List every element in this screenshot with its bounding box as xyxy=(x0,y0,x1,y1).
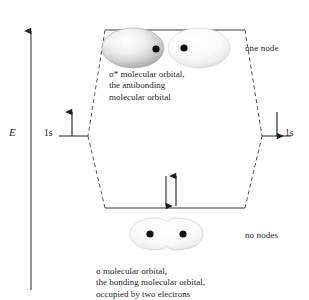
bonding-node-label: no nodes xyxy=(245,230,278,240)
bonding-orbital-graphic xyxy=(130,218,203,250)
bonding-caption-line-3: occupied by two electrons xyxy=(96,289,205,300)
atomic-electron-arrows xyxy=(72,112,277,136)
correlation-line-bottom-right xyxy=(245,136,262,208)
antibonding-node-label: one node xyxy=(245,43,279,53)
antibonding-caption-line-2: the antibonding xyxy=(109,80,185,91)
bonding-electron-arrows xyxy=(166,176,176,206)
mo-energy-diagram: E 1s 1s one node no nodes σ* molecular o… xyxy=(0,0,309,300)
antibonding-orbital-graphic xyxy=(102,28,230,68)
antibonding-caption-line-3: molecular orbital xyxy=(109,92,185,103)
antibonding-nucleus-right xyxy=(180,44,187,51)
bonding-nucleus-left xyxy=(146,230,153,237)
bonding-caption-line-1: σ molecular orbital, xyxy=(96,266,205,277)
bonding-nucleus-right xyxy=(179,230,186,237)
antibonding-caption: σ* molecular orbital, the antibonding mo… xyxy=(109,69,185,103)
correlation-line-bottom-left xyxy=(88,136,105,208)
bonding-lobe-shape xyxy=(130,218,203,250)
antibonding-lobe-right xyxy=(168,28,230,68)
antibonding-caption-line-1: σ* molecular orbital, xyxy=(109,69,185,80)
energy-axis-label: E xyxy=(9,126,16,138)
left-atomic-orbital-label: 1s xyxy=(44,128,53,138)
right-atomic-orbital-label: 1s xyxy=(285,128,294,138)
bonding-caption-line-2: the bonding molecular orbital, xyxy=(96,277,205,288)
antibonding-nucleus-left xyxy=(152,45,159,52)
bonding-caption: σ molecular orbital, the bonding molecul… xyxy=(96,266,205,300)
